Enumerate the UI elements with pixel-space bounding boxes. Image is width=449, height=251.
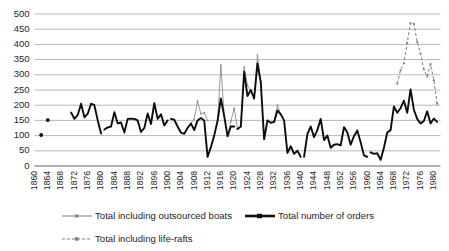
x-tick-label: 1980 [428, 171, 438, 190]
data-point-marker [200, 113, 202, 115]
x-tick-label: 1924 [242, 171, 252, 190]
legend-label: Total number of orders [278, 210, 374, 221]
x-tick-label: 1932 [268, 171, 278, 190]
series-line-segment [171, 99, 234, 157]
x-tick-label: 1912 [202, 171, 212, 190]
x-tick-label: 1872 [69, 171, 79, 190]
x-tick-label: 1908 [189, 171, 199, 190]
x-tick-label: 1956 [348, 171, 358, 190]
x-axis-tick-labels: 1860186418681872187618801884188818921896… [29, 171, 438, 190]
x-tick-label: 1904 [175, 171, 185, 190]
data-point-marker [257, 54, 259, 56]
data-point-marker [409, 22, 411, 24]
series-line-segment [71, 104, 101, 134]
data-point-marker [436, 103, 438, 105]
x-tick-label: 1920 [228, 171, 238, 190]
x-tick-label: 1936 [282, 171, 292, 190]
legend-item-rafts[interactable]: Total including life-rafts [62, 233, 193, 244]
legend-item-orders[interactable]: Total number of orders [245, 210, 374, 221]
legend-label: Total including life-rafts [95, 233, 193, 244]
x-tick-label: 1880 [95, 171, 105, 190]
x-tick-label: 1860 [29, 171, 39, 190]
series-line-segment [238, 64, 301, 157]
data-point-marker [426, 75, 428, 77]
y-tick-label: 100 [14, 129, 30, 140]
series-total-including-life-rafts [396, 22, 438, 105]
x-tick-label: 1896 [149, 171, 159, 190]
y-tick-label: 150 [14, 114, 30, 125]
y-tick-label: 300 [14, 68, 30, 79]
x-tick-label: 1976 [415, 171, 425, 190]
legend-marker-orders [257, 214, 262, 218]
data-point-marker [193, 118, 195, 120]
data-point-marker [207, 120, 209, 122]
data-point-marker [39, 133, 43, 137]
legend-label: Total including outsourced boats [95, 210, 232, 221]
data-point-marker [416, 41, 418, 43]
legend-marker-outsourced [75, 214, 78, 217]
series-total-number-of-orders [39, 64, 437, 160]
data-point-marker [406, 42, 408, 44]
series-line-segment [104, 103, 167, 132]
y-axis-tick-labels: 050100150200250300350400450500 [14, 8, 30, 171]
x-tick-label: 1868 [55, 171, 65, 190]
data-point-marker [399, 69, 401, 71]
y-tick-label: 500 [14, 8, 30, 19]
data-point-marker [243, 66, 245, 68]
legend-marker-rafts [75, 237, 79, 240]
data-point-marker [403, 62, 405, 64]
data-point-marker [429, 63, 431, 65]
gridlines [35, 14, 441, 166]
x-tick-label: 1948 [322, 171, 332, 190]
y-tick-label: 200 [14, 99, 30, 110]
x-tick-label: 1964 [375, 171, 385, 190]
y-tick-label: 450 [14, 23, 30, 34]
x-tick-label: 1968 [388, 171, 398, 190]
x-tick-label: 1928 [255, 171, 265, 190]
data-point-marker [46, 118, 50, 122]
x-tick-label: 1972 [401, 171, 411, 190]
y-tick-label: 250 [14, 84, 30, 95]
data-point-marker [433, 79, 435, 81]
line-chart: 050100150200250300350400450500 186018641… [0, 0, 449, 251]
data-point-marker [233, 107, 235, 109]
data-point-marker [277, 104, 279, 106]
y-tick-label: 50 [19, 144, 30, 155]
y-tick-label: 0 [24, 160, 29, 171]
x-tick-label: 1864 [42, 171, 52, 190]
x-tick-label: 1888 [122, 171, 132, 190]
legend-item-outsourced[interactable]: Total including outsourced boats [62, 210, 232, 221]
y-tick-label: 350 [14, 53, 30, 64]
data-point-marker [197, 100, 199, 102]
x-tick-label: 1944 [308, 171, 318, 190]
x-tick-label: 1876 [82, 171, 92, 190]
data-point-marker [413, 23, 415, 25]
x-tick-label: 1916 [215, 171, 225, 190]
x-tick-label: 1940 [295, 171, 305, 190]
x-tick-label: 1900 [162, 171, 172, 190]
series-line-segment [371, 89, 438, 160]
x-tick-label: 1960 [362, 171, 372, 190]
x-tick-label: 1892 [135, 171, 145, 190]
chart-container: 050100150200250300350400450500 186018641… [0, 0, 449, 251]
y-tick-label: 400 [14, 38, 30, 49]
x-tick-label: 1884 [109, 171, 119, 190]
data-point-marker [203, 112, 205, 114]
data-point-marker [230, 120, 232, 122]
data-point-marker [220, 64, 222, 66]
data-point-marker [419, 52, 421, 54]
data-series-layer [39, 22, 438, 160]
data-point-marker [423, 68, 425, 70]
data-point-marker [396, 83, 398, 85]
x-tick-label: 1952 [335, 171, 345, 190]
chart-legend: Total including outsourced boatsTotal nu… [62, 210, 374, 244]
